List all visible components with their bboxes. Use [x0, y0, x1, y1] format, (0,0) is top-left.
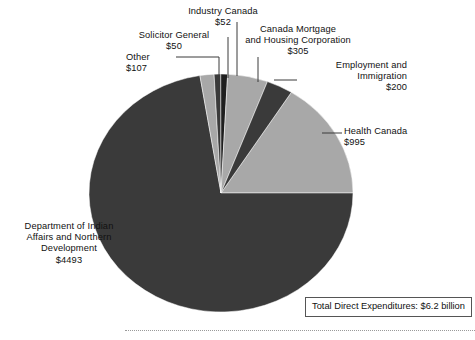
total-expenditures-box: Total Direct Expenditures: $6.2 billion: [305, 297, 472, 317]
slice-label-health-canada: Health Canada $995: [344, 126, 444, 148]
pie-chart-figure: Industry Canada $52 Solicitor General $5…: [0, 0, 475, 340]
slice-label-canada-mortgage-and-housing-corporation: Canada Mortgage and Housing Corporation …: [236, 24, 360, 58]
pie-slices-group: [89, 74, 353, 312]
slice-label-solicitor-general: Solicitor General $50: [112, 30, 236, 52]
slice-label-department-of-indian-affairs-and-northern-development: Department of Indian Affairs and Norther…: [8, 221, 130, 266]
slice-label-other: Other $107: [126, 52, 176, 74]
footer-dotted-rule: [125, 330, 475, 331]
slice-label-employment-and-immigration: Employment and Immigration $200: [299, 60, 407, 94]
